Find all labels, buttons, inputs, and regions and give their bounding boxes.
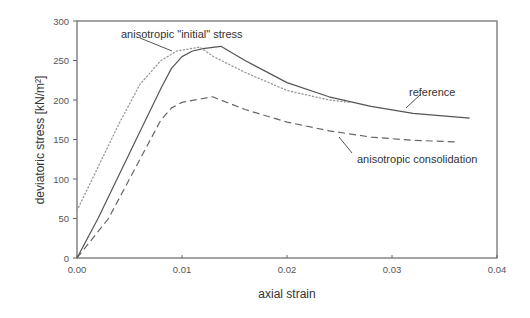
annotation-leader-line xyxy=(339,137,352,153)
x-tick-label: 0.04 xyxy=(488,264,507,275)
annotation-label: anisotropic consolidation xyxy=(357,153,477,165)
x-tick-label: 0.01 xyxy=(173,264,192,275)
y-tick-label: 250 xyxy=(53,55,69,66)
stress-strain-chart: 050100150200250300 0.000.010.020.030.04 … xyxy=(0,0,530,318)
y-tick-label: 300 xyxy=(53,16,69,27)
y-tick-label: 200 xyxy=(53,95,69,106)
annotation-label: reference xyxy=(409,86,455,98)
x-tick-label: 0.02 xyxy=(278,264,297,275)
plot-frame xyxy=(77,21,497,258)
y-tick-label: 0 xyxy=(64,253,69,264)
series-anisotropic-initial-stress-line xyxy=(77,47,350,211)
y-tick-label: 50 xyxy=(58,213,69,224)
y-tick-label: 100 xyxy=(53,174,69,185)
x-tick-label: 0.00 xyxy=(68,264,87,275)
x-tick-label: 0.03 xyxy=(383,264,402,275)
x-axis-title: axial strain xyxy=(258,287,315,301)
y-axis-ticks: 050100150200250300 xyxy=(53,16,77,264)
series-anisotropic-consolidation-line xyxy=(77,97,458,258)
annotations-layer: anisotropic "initial" stressreferenceani… xyxy=(121,28,477,165)
y-tick-label: 150 xyxy=(53,134,69,145)
y-axis-title: deviatoric stress [kN/m²] xyxy=(33,76,47,205)
annotation-label: anisotropic "initial" stress xyxy=(121,28,243,40)
plot-border xyxy=(77,21,497,258)
